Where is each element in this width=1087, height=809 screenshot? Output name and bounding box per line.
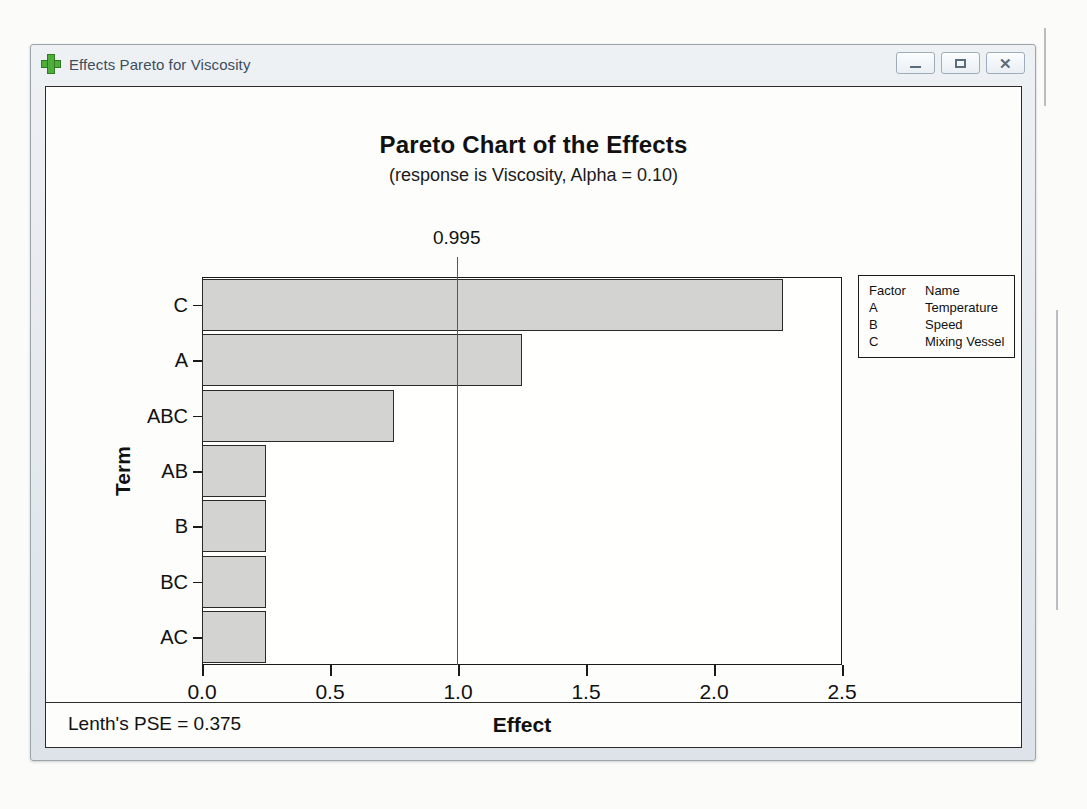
legend-header-factor: Factor [869,282,925,299]
x-tick [202,665,204,676]
legend-name: Temperature [925,299,1004,316]
bar-row [202,279,842,331]
bar-abc[interactable] [202,390,394,442]
bar-a[interactable] [202,334,522,386]
minimize-icon [910,66,921,68]
x-tick-label: 2.0 [699,680,728,704]
lenths-pse-footnote: Lenth's PSE = 0.375 [68,713,241,735]
minimize-button[interactable] [896,52,935,74]
bars-layer [202,277,842,665]
legend-header-name: Name [925,282,1004,299]
plot-area: 0.995 CAABCABBBCAC Term 0.00.51.01.52.02… [202,277,842,665]
y-tick-label-b: B [175,515,188,538]
y-axis-title: Term [111,446,135,496]
chart-canvas: Pareto Chart of the Effects (response is… [45,86,1022,748]
y-tick [193,416,202,418]
close-icon: ✕ [999,56,1012,71]
bar-row [202,445,842,497]
legend-factor: A [869,299,925,316]
bar-row [202,334,842,386]
legend-factor: C [869,333,925,350]
x-tick-label: 1.0 [443,680,472,704]
chart-subtitle: (response is Viscosity, Alpha = 0.10) [46,165,1021,186]
maximize-icon [955,59,966,68]
x-tick [330,665,332,676]
y-tick [193,526,202,528]
chart-title: Pareto Chart of the Effects [46,131,1021,159]
y-tick [193,360,202,362]
y-tick-label-abc: ABC [147,404,188,427]
x-tick [714,665,716,676]
bar-bc[interactable] [202,556,266,608]
legend-row: CMixing Vessel [869,333,1004,350]
window-title: Effects Pareto for Viscosity [69,56,251,73]
reference-line [457,257,459,665]
close-button[interactable]: ✕ [986,52,1025,74]
page-edge-line-bottom [1056,310,1058,610]
y-tick [193,471,202,473]
legend-table: Factor Name ATemperatureBSpeedCMixing Ve… [869,282,1004,350]
maximize-button[interactable] [941,52,980,74]
x-tick-label: 2.5 [827,680,856,704]
x-tick [586,665,588,676]
legend-row: ATemperature [869,299,1004,316]
bar-row [202,390,842,442]
x-tick [842,665,844,676]
x-tick-label: 0.5 [315,680,344,704]
legend: Factor Name ATemperatureBSpeedCMixing Ve… [858,275,1015,358]
legend-name: Mixing Vessel [925,333,1004,350]
page-edge-line-top [1044,28,1046,106]
window-title-bar[interactable]: Effects Pareto for Viscosity ✕ [31,45,1035,83]
legend-name: Speed [925,316,1004,333]
y-tick [193,582,202,584]
x-tick [458,665,460,676]
green-plus-icon [41,54,61,74]
bar-row [202,500,842,552]
legend-header-row: Factor Name [869,282,1004,299]
bar-row [202,556,842,608]
x-tick-label: 1.5 [571,680,600,704]
y-tick [193,637,202,639]
x-tick-label: 0.0 [187,680,216,704]
legend-body: ATemperatureBSpeedCMixing Vessel [869,299,1004,350]
bar-b[interactable] [202,500,266,552]
bar-c[interactable] [202,279,783,331]
x-axis-title: Effect [493,713,551,737]
reference-line-label: 0.995 [433,227,481,249]
bar-ab[interactable] [202,445,266,497]
y-tick [193,305,202,307]
bar-ac[interactable] [202,611,266,663]
bar-row [202,611,842,663]
y-tick-label-ab: AB [161,460,188,483]
y-tick-label-ac: AC [160,626,188,649]
y-tick-label-a: A [175,349,188,372]
graph-window: Effects Pareto for Viscosity ✕ Pareto Ch… [30,44,1036,761]
y-tick-label-bc: BC [160,570,188,593]
window-controls: ✕ [896,52,1025,74]
legend-row: BSpeed [869,316,1004,333]
y-tick-label-c: C [174,293,188,316]
legend-factor: B [869,316,925,333]
footnote-divider [46,702,1021,703]
